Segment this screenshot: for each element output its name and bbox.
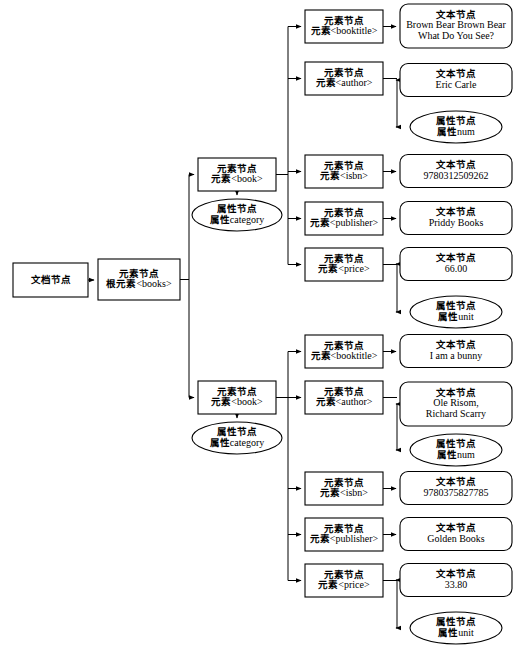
book-element-node-box-2	[198, 381, 276, 414]
text-node-box-1-5-1	[400, 248, 512, 281]
text-node-box-1-2-1	[400, 64, 512, 97]
attribute-node-ellipse-2-2-2	[410, 434, 502, 466]
xml-dom-tree-diagram	[0, 0, 521, 650]
field-element-node-box-2-4	[305, 518, 383, 551]
text-node-box-1-1-1	[400, 4, 512, 48]
text-node-box-2-1-1	[400, 335, 512, 368]
attribute-node-ellipse-1-2-2	[410, 111, 502, 143]
root-element-node-box	[98, 259, 180, 300]
attribute-node-ellipse-1-5-2	[410, 296, 502, 328]
text-node-box-1-4-1	[400, 202, 512, 235]
field-element-node-box-1-4	[305, 202, 383, 235]
text-node-box-2-4-1	[400, 518, 512, 551]
text-node-box-2-3-1	[400, 472, 512, 505]
text-node-box-1-3-1	[400, 155, 512, 188]
book-element-node-box-1	[198, 158, 276, 191]
field-element-node-box-2-1	[305, 335, 383, 368]
attribute-node-ellipse-2-5-2	[410, 612, 502, 644]
book-attribute-node-ellipse-2	[192, 422, 282, 454]
text-node-box-2-2-1	[400, 382, 512, 426]
field-element-node-box-2-2	[305, 381, 383, 414]
document-node-box	[13, 263, 88, 297]
field-element-node-box-2-5	[305, 564, 383, 597]
field-element-node-box-2-3	[305, 472, 383, 505]
field-element-node-box-1-3	[305, 155, 383, 188]
text-node-box-2-5-1	[400, 564, 512, 597]
field-element-node-box-1-5	[305, 248, 383, 281]
field-element-node-box-1-2	[305, 62, 383, 95]
book-attribute-node-ellipse-1	[192, 199, 282, 231]
field-element-node-box-1-1	[305, 10, 383, 43]
